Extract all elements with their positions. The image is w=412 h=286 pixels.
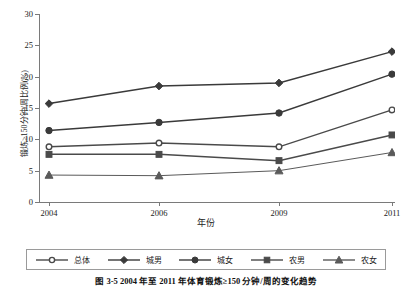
data-point [276, 144, 282, 150]
y-tick-label: 15 [25, 104, 34, 113]
x-tick [159, 202, 160, 206]
data-point [156, 140, 162, 146]
y-tick [35, 202, 39, 203]
series-line [49, 152, 392, 175]
data-point [46, 151, 52, 157]
legend-label: 总体 [74, 254, 90, 265]
series-农女 [45, 148, 395, 178]
chart-legend: 总体城男城女农男农女 [26, 249, 386, 270]
y-tick-label: 30 [25, 10, 34, 19]
data-point [388, 48, 395, 56]
data-point [155, 82, 163, 90]
x-axis-line [39, 202, 395, 203]
figure-container: 锻炼≥150分钟/周比例(%) 051015202530 20042006200… [0, 0, 412, 286]
y-tick-label: 0 [29, 198, 33, 207]
x-tick [392, 202, 393, 206]
legend-item-农男[interactable]: 农男 [250, 254, 305, 266]
data-point [388, 148, 395, 155]
data-point [389, 71, 395, 77]
series-城女 [46, 71, 395, 134]
y-tick-label: 25 [25, 41, 34, 50]
data-point [389, 132, 395, 138]
figure-caption: 图 3-5 2004 年至 2011 年体育锻炼≥150 分钟/周的变化趋势 [0, 274, 412, 286]
x-tick [279, 202, 280, 206]
legend-label: 农女 [361, 254, 377, 265]
series-总体 [46, 107, 395, 150]
legend-item-农女[interactable]: 农女 [322, 254, 377, 266]
series-line [49, 110, 392, 147]
y-tick-label: 10 [25, 135, 34, 144]
legend-marker-filled-square-icon [250, 254, 284, 266]
series-line [49, 74, 392, 130]
data-point [276, 158, 282, 164]
series-line [49, 135, 392, 161]
y-axis-title: 锻炼≥150分钟/周比例(%) [18, 29, 29, 199]
data-point [156, 119, 162, 125]
data-point [389, 107, 395, 113]
legend-marker-filled-diamond-icon [107, 254, 141, 266]
data-point [46, 144, 52, 150]
data-point [46, 127, 52, 133]
legend-item-城男[interactable]: 城男 [107, 254, 162, 266]
data-point [275, 79, 283, 87]
series-line [49, 52, 392, 104]
data-point [45, 100, 53, 108]
legend-label: 农男 [289, 254, 305, 265]
legend-item-总体[interactable]: 总体 [35, 254, 90, 266]
x-tick [49, 202, 50, 206]
legend-label: 城女 [217, 254, 233, 265]
y-tick-label: 20 [25, 73, 34, 82]
x-axis-title: 年份 [0, 216, 412, 229]
data-point [276, 110, 282, 116]
plot-area: 051015202530 2004200620092011 [39, 14, 395, 202]
y-tick-label: 5 [29, 167, 33, 176]
series-layer [39, 14, 395, 202]
legend-marker-filled-triangle-icon [322, 254, 356, 266]
data-point [156, 151, 162, 157]
series-农男 [46, 132, 395, 164]
legend-marker-filled-circle-icon [178, 254, 212, 266]
series-城男 [45, 48, 395, 108]
legend-item-城女[interactable]: 城女 [178, 254, 233, 266]
legend-marker-open-circle-icon [35, 254, 69, 266]
legend-label: 城男 [146, 254, 162, 265]
